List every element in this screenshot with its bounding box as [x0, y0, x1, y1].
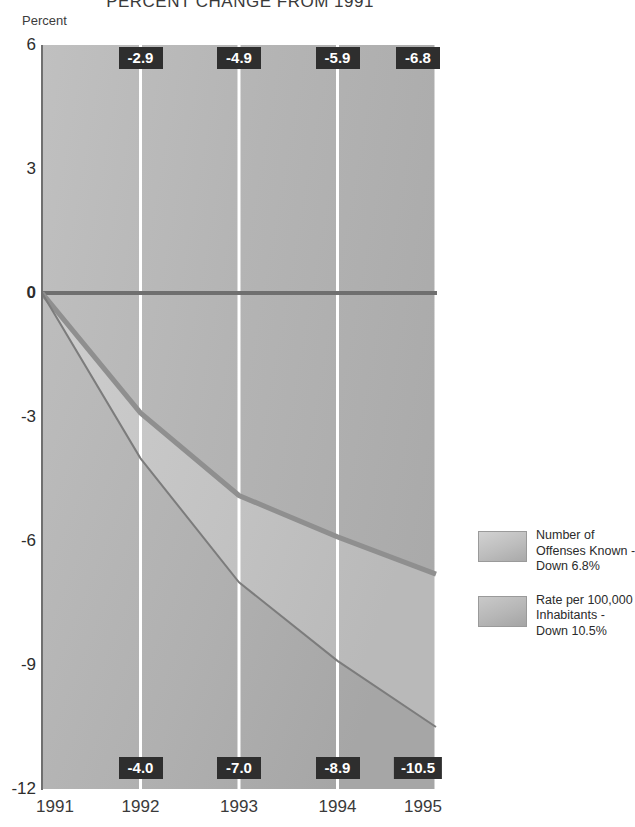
legend-label-rate-line1: Rate per 100,000: [536, 593, 633, 609]
legend-label-offenses-line2: Offenses Known -: [536, 544, 635, 560]
callout-rate-1993: -7.0: [217, 757, 261, 779]
plot-svg: [42, 45, 437, 789]
legend-label-offenses-line3: Down 6.8%: [536, 559, 635, 575]
y-axis-line: [41, 45, 43, 790]
legend-swatch-rate: [478, 596, 527, 627]
callout-rate-1992: -4.0: [119, 757, 163, 779]
callout-offenses-1993: -4.9: [217, 47, 261, 69]
callout-offenses-1995: -6.8: [396, 47, 440, 69]
y-tick-6: 6: [2, 35, 36, 55]
legend-label-offenses: Number of Offenses Known - Down 6.8%: [536, 528, 635, 575]
x-tick-1992: 1992: [122, 797, 160, 817]
legend-entry-rate: Rate per 100,000 Inhabitants - Down 10.5…: [478, 593, 632, 640]
x-tick-1993: 1993: [220, 797, 258, 817]
y-tick-0: 0: [2, 283, 36, 303]
legend-swatch-offenses: [478, 531, 527, 562]
legend-label-rate-line3: Down 10.5%: [536, 624, 633, 640]
y-tick-neg3: -3: [2, 407, 36, 427]
legend-label-offenses-line1: Number of: [536, 528, 635, 544]
x-tick-1994: 1994: [319, 797, 357, 817]
x-tick-1995: 1995: [404, 797, 442, 817]
callout-offenses-1994: -5.9: [316, 47, 360, 69]
y-tick-neg6: -6: [2, 531, 36, 551]
x-tick-1991: 1991: [36, 797, 74, 817]
legend-entry-offenses: Number of Offenses Known - Down 6.8%: [478, 528, 632, 575]
chart-title: PERCENT CHANGE FROM 1991: [0, 0, 480, 12]
x-axis-tick-labels: 19911992199319941995: [0, 797, 480, 827]
legend-label-rate: Rate per 100,000 Inhabitants - Down 10.5…: [536, 593, 633, 640]
y-tick-3: 3: [2, 159, 36, 179]
y-tick-neg12: -12: [2, 779, 36, 799]
y-tick-neg9: -9: [2, 655, 36, 675]
callout-offenses-1992: -2.9: [119, 47, 163, 69]
legend: Number of Offenses Known - Down 6.8% Rat…: [478, 528, 632, 657]
y-axis-tick-labels: 630-3-6-9-12: [0, 0, 36, 827]
callout-rate-1994: -8.9: [316, 757, 360, 779]
callout-rate-1995: -10.5: [394, 757, 442, 779]
legend-label-rate-line2: Inhabitants -: [536, 608, 633, 624]
plot-area: [42, 45, 437, 789]
